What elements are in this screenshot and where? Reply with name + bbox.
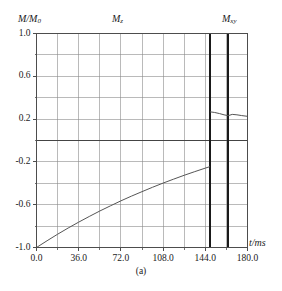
- y-tick-label: 1.0: [3, 29, 31, 39]
- y-tick-label: -0.6: [3, 200, 31, 210]
- x-tick-label: 36.0: [62, 254, 96, 264]
- x-tick-label: 180.0: [231, 254, 265, 264]
- axis-tick-marks: [33, 34, 248, 252]
- y-tick-label: 0.6: [3, 71, 31, 81]
- y-tick-label: 0.2: [3, 114, 31, 124]
- x-tick-label: 144.0: [188, 254, 222, 264]
- x-tick-label: 108.0: [146, 254, 180, 264]
- y-tick-label: -0.2: [3, 157, 31, 167]
- figure-panel: M/M0 Mz Mxy t/ms 1.00.60.2-0.2-0.6-1.0 0…: [0, 0, 282, 291]
- plot-canvas: [0, 0, 282, 291]
- y-tick-label: -1.0: [3, 243, 31, 253]
- x-tick-label: 0.0: [20, 254, 54, 264]
- x-tick-label: 72.0: [104, 254, 138, 264]
- figure-caption: (a): [0, 266, 282, 276]
